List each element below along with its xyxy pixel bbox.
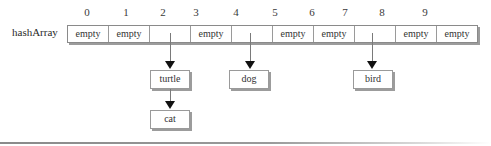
index-label-3: 3 — [190, 6, 202, 18]
index-label-8: 8 — [376, 6, 388, 18]
index-label-7: 7 — [339, 6, 351, 18]
index-label-6: 6 — [306, 6, 318, 18]
node-cat: cat — [150, 110, 190, 129]
index-label-1: 1 — [120, 6, 132, 18]
node-turtle: turtle — [150, 70, 190, 89]
pointer-line-4 — [250, 33, 251, 63]
array-cell-4 — [232, 26, 273, 42]
index-label-4: 4 — [230, 6, 242, 18]
pointer-line-2 — [170, 33, 171, 63]
index-label-0: 0 — [81, 6, 93, 18]
node-bird: bird — [353, 70, 393, 89]
node-dog: dog — [229, 70, 269, 89]
array-cell-9: empty — [437, 26, 477, 42]
array-name-label: hashArray — [12, 26, 58, 38]
index-label-9: 9 — [419, 6, 431, 18]
arrowhead-icon — [245, 61, 255, 69]
arrowhead-icon — [165, 101, 175, 109]
bottom-rule — [0, 142, 491, 144]
array-cell-7 — [355, 26, 396, 42]
index-label-5: 5 — [269, 6, 281, 18]
array-cell-6: empty — [314, 26, 355, 42]
pointer-line-7 — [372, 33, 373, 63]
hash-array: empty empty empty empty empty empty empt… — [67, 25, 478, 43]
arrowhead-icon — [165, 61, 175, 69]
array-cell-5: empty — [273, 26, 314, 42]
arrowhead-icon — [367, 61, 377, 69]
array-cell-3: empty — [191, 26, 232, 42]
array-cell-0: empty — [68, 26, 109, 42]
index-label-2: 2 — [157, 6, 169, 18]
array-cell-1: empty — [109, 26, 150, 42]
array-cell-8: empty — [396, 26, 437, 42]
